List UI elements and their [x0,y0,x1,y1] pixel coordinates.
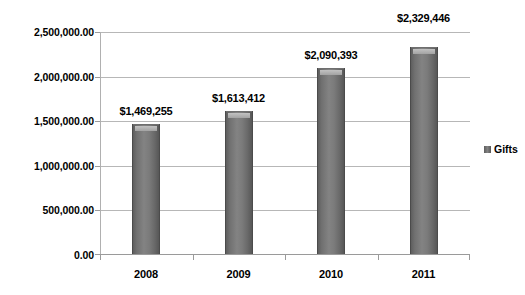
x-axis-label-2009: 2009 [226,268,250,280]
y-axis-tick-label: 0.00 [2,250,94,261]
x-axis-tickmark [100,255,101,260]
y-axis-tick-label: 1,500,000.00 [2,116,94,127]
bar-2008 [132,124,160,254]
x-axis-tickmark [469,255,470,260]
y-axis-tickmark [95,121,100,122]
data-label-2010: $2,090,393 [304,49,357,61]
bar-top-edge [318,68,344,69]
legend-label-gifts: Gifts [494,144,518,155]
y-axis-tick-label: 1,000,000.00 [2,161,94,172]
legend-swatch-gifts [484,146,491,153]
x-axis-tickmark [378,255,379,260]
bar-2011 [410,47,438,254]
y-axis-tickmark [95,32,100,33]
plot-area [100,32,470,255]
bar-chart: 2,500,000.00 2,000,000.00 1,500,000.00 1… [0,0,525,295]
y-axis-tick-label: 2,000,000.00 [2,71,94,82]
y-axis-tickmark [95,77,100,78]
bar-highlight-cap [228,113,250,118]
data-label-2011: $2,329,446 [397,12,450,24]
x-axis-label-2011: 2011 [412,268,435,280]
bar-top-edge [226,111,252,112]
bar-2010 [317,68,345,254]
bar-highlight-cap [135,126,157,131]
data-label-2009: $1,613,412 [212,92,265,104]
legend: Gifts [484,144,518,155]
x-axis-label-2008: 2008 [134,268,158,280]
bar-top-edge [411,47,437,48]
y-axis-tickmark [95,210,100,211]
bar-highlight-cap [320,70,342,75]
data-label-2008: $1,469,255 [119,105,172,117]
bar-2009 [225,111,253,254]
x-axis-tickmark [193,255,194,260]
y-axis-tick-label: 500,000.00 [2,205,94,216]
bar-highlight-cap [413,49,435,54]
y-axis-tick-label: 2,500,000.00 [2,27,94,38]
x-axis-label-2010: 2010 [319,268,343,280]
bar-top-edge [133,124,159,125]
y-axis-tickmark [95,166,100,167]
y-axis-line [100,32,101,255]
x-axis-tickmark [285,255,286,260]
gridline [100,32,470,33]
